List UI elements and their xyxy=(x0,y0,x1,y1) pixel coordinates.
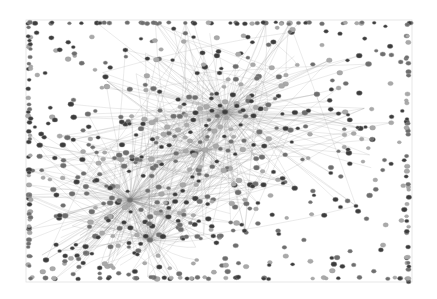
graph-node xyxy=(378,248,383,252)
graph-node xyxy=(26,35,30,38)
graph-node xyxy=(153,57,159,62)
graph-node xyxy=(28,67,33,71)
graph-node xyxy=(287,22,291,25)
graph-node xyxy=(57,213,62,217)
graph-node xyxy=(217,71,222,75)
graph-node xyxy=(163,201,167,204)
graph-node xyxy=(132,269,138,273)
graph-node xyxy=(156,185,162,190)
graph-node xyxy=(145,22,150,26)
graph-node xyxy=(370,137,374,140)
graph-node xyxy=(343,21,347,24)
graph-node xyxy=(407,74,411,77)
graph-node xyxy=(127,122,131,125)
graph-node xyxy=(174,160,178,163)
graph-node xyxy=(167,143,172,147)
graph-node xyxy=(40,169,44,173)
graph-node xyxy=(406,61,411,65)
graph-node xyxy=(282,245,287,249)
graph-node xyxy=(107,200,113,205)
graph-node xyxy=(388,81,393,85)
graph-node xyxy=(398,60,403,64)
graph-node xyxy=(250,41,254,45)
graph-node xyxy=(251,113,257,118)
graph-node xyxy=(149,120,155,125)
graph-node xyxy=(250,63,255,67)
graph-node xyxy=(26,183,32,187)
graph-node xyxy=(127,225,133,230)
graph-node xyxy=(303,21,307,24)
graph-node xyxy=(222,100,228,105)
graph-node xyxy=(266,136,272,141)
graph-node xyxy=(249,99,254,103)
graph-node xyxy=(81,128,86,132)
graph-node xyxy=(330,256,334,259)
graph-node xyxy=(29,255,33,258)
graph-node xyxy=(343,81,348,85)
graph-node xyxy=(85,112,91,117)
graph-node xyxy=(405,202,409,206)
graph-node xyxy=(221,168,227,173)
graph-node xyxy=(158,109,163,113)
graph-node xyxy=(234,104,239,108)
graph-node xyxy=(116,244,121,248)
graph-node xyxy=(210,165,215,169)
graph-node xyxy=(270,213,275,217)
graph-node xyxy=(50,187,56,192)
graph-node xyxy=(26,242,31,246)
graph-node xyxy=(71,45,75,48)
graph-edge xyxy=(253,23,266,65)
graph-node xyxy=(218,147,223,151)
graph-node xyxy=(284,73,289,77)
graph-node xyxy=(405,23,409,26)
graph-node xyxy=(197,179,201,182)
graph-node xyxy=(189,277,194,281)
graph-node xyxy=(157,90,162,94)
graph-node xyxy=(216,49,221,53)
graph-node xyxy=(236,261,241,265)
graph-node xyxy=(224,116,228,120)
graph-node xyxy=(117,157,121,160)
graph-node xyxy=(37,154,43,159)
graph-node xyxy=(222,85,226,88)
graph-node xyxy=(116,153,122,158)
graph-node xyxy=(328,107,333,111)
graph-node xyxy=(178,227,184,232)
graph-node xyxy=(214,53,220,58)
graph-node xyxy=(41,176,45,179)
graph-node xyxy=(261,21,266,25)
graph-node xyxy=(91,146,95,150)
graph-node xyxy=(333,197,338,201)
graph-node xyxy=(48,106,52,110)
graph-node xyxy=(103,74,109,79)
graph-node xyxy=(364,217,369,221)
graph-node xyxy=(88,137,93,141)
graph-node xyxy=(26,87,31,91)
graph-node xyxy=(106,219,111,223)
graph-node xyxy=(371,269,376,273)
graph-node xyxy=(296,127,300,130)
graph-node xyxy=(123,48,128,52)
graph-node xyxy=(205,194,210,198)
graph-node xyxy=(233,77,239,81)
graph-node xyxy=(370,126,376,131)
graph-node xyxy=(288,30,292,33)
graph-node xyxy=(362,37,366,41)
graph-node xyxy=(243,198,248,202)
graph-node xyxy=(27,26,31,29)
graph-node xyxy=(233,153,237,156)
graph-node xyxy=(369,107,374,111)
graph-node xyxy=(263,107,268,111)
graph-node xyxy=(205,135,209,139)
graph-node xyxy=(406,195,411,199)
graph-node xyxy=(118,115,123,119)
graph-node xyxy=(74,180,80,185)
graph-node xyxy=(226,78,231,82)
graph-edge xyxy=(203,53,226,112)
graph-node xyxy=(364,125,368,128)
graph-node xyxy=(274,126,278,129)
graph-node xyxy=(290,140,294,143)
graph-node xyxy=(71,115,77,120)
graph-node xyxy=(49,36,54,40)
graph-node xyxy=(143,261,147,264)
